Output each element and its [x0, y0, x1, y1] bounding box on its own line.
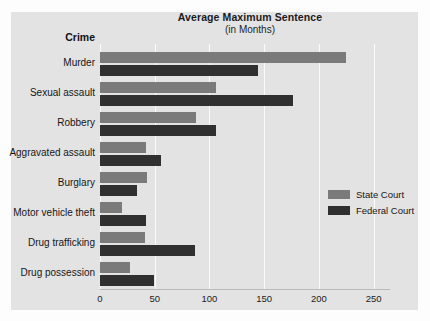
bar: [100, 185, 137, 196]
bar: [100, 82, 216, 93]
category-label: Murder: [0, 57, 95, 68]
legend-label: State Court: [356, 189, 404, 200]
bar: [100, 275, 154, 286]
category-label: Motor vehicle theft: [0, 207, 95, 218]
chart-title: Average Maximum Sentence: [150, 11, 350, 23]
bar: [100, 65, 258, 76]
chart-screenshot: Average Maximum Sentence (in Months) Cri…: [0, 0, 430, 321]
legend-item: Federal Court: [328, 203, 414, 217]
bar: [100, 142, 146, 153]
bar: [100, 125, 216, 136]
legend: State CourtFederal Court: [328, 187, 414, 219]
bar: [100, 245, 195, 256]
bar: [100, 202, 122, 213]
bar-group: Robbery: [100, 112, 390, 142]
category-label: Drug trafficking: [0, 237, 95, 248]
x-tick-label: 200: [311, 293, 327, 304]
legend-label: Federal Court: [356, 205, 414, 216]
bar-group: Murder: [100, 52, 390, 82]
chart-subtitle: (in Months): [150, 24, 350, 35]
x-tick-label: 0: [97, 293, 102, 304]
category-label: Burglary: [0, 177, 95, 188]
bar: [100, 215, 146, 226]
category-label: Robbery: [0, 117, 95, 128]
bar-group: Drug trafficking: [100, 232, 390, 262]
bar: [100, 232, 145, 243]
plot-area: 050100150200250 MurderSexual assaultRobb…: [100, 44, 390, 289]
bar-group: Sexual assault: [100, 82, 390, 112]
bar: [100, 262, 130, 273]
legend-swatch: [328, 206, 350, 215]
bar: [100, 155, 161, 166]
bar-group: Drug possession: [100, 262, 390, 292]
legend-swatch: [328, 190, 350, 199]
category-label: Sexual assault: [0, 87, 95, 98]
category-label: Drug possession: [0, 267, 95, 278]
legend-item: State Court: [328, 187, 414, 201]
bar: [100, 112, 196, 123]
category-axis-title: Crime: [0, 31, 95, 43]
bar-group: Aggravated assault: [100, 142, 390, 172]
category-label: Aggravated assault: [0, 147, 95, 158]
x-tick-label: 250: [366, 293, 382, 304]
bar: [100, 95, 293, 106]
x-tick-label: 150: [256, 293, 272, 304]
bar: [100, 172, 147, 183]
x-tick-label: 50: [149, 293, 160, 304]
x-tick-label: 100: [201, 293, 217, 304]
bar: [100, 52, 346, 63]
